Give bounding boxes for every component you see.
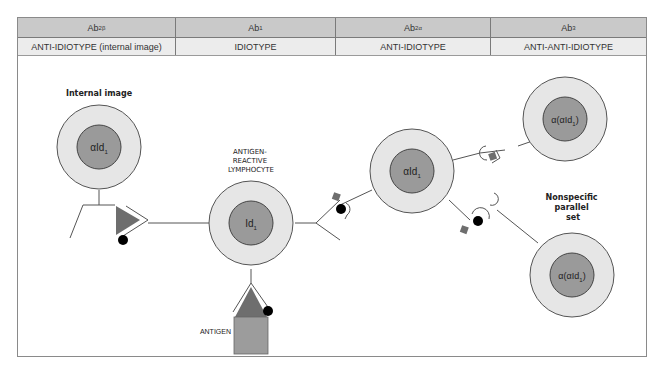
dot-icon [263,306,273,316]
connector-line [453,153,480,160]
internal-image-title: Internal image [66,89,133,98]
cup-receptor-icon [490,193,498,205]
idiotype-network-diagram: Internal image αId1 ANTIGEN- REACTIVE LY… [0,0,660,369]
antigen-label: ANTIGEN [200,328,231,335]
square-epitope-icon [488,152,497,161]
receptor-arm-left [70,205,115,238]
cup-receptor-icon [345,203,350,219]
square-epitope-icon [332,192,341,201]
internal-image-epitope-icon [116,206,140,235]
nonspecific-title: Nonspecific parallel set [546,193,601,222]
antigen-reactive-title: ANTIGEN- REACTIVE LYMPHOCYTE [228,148,274,174]
dot-icon [473,216,483,226]
dot-icon [118,235,128,245]
connector-line [480,150,505,153]
dot-icon [336,204,346,214]
connector-line [497,210,538,243]
connector-line [449,200,470,220]
square-epitope-icon [460,225,469,234]
receptor-arm-mid [316,200,340,240]
antigen-box [234,317,268,354]
connector-line [340,190,372,205]
antigen-epitope-icon [235,287,267,317]
